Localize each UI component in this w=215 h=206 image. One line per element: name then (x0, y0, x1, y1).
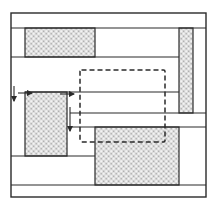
layout-diagram (0, 0, 215, 206)
block-left-middle (25, 92, 67, 156)
block-bottom-right (95, 127, 179, 185)
block-top-left (25, 28, 95, 57)
block-right-column (179, 28, 193, 113)
hatched-blocks (25, 28, 193, 185)
